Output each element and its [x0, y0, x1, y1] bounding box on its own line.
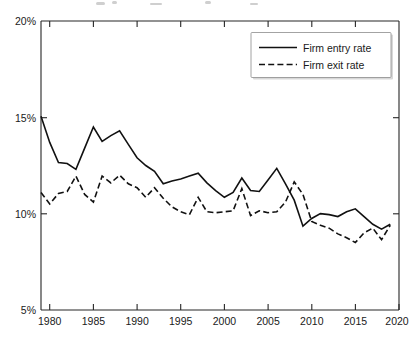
x-tick-label-2005: 2005 — [256, 315, 280, 327]
series-firm-entry-rate — [41, 116, 390, 229]
x-tick-label-2010: 2010 — [300, 315, 324, 327]
x-tick-label-2015: 2015 — [344, 315, 368, 327]
line-chart: 20% 15% 10% 5% 1980 1985 1990 1995 2000 … — [0, 0, 419, 342]
series-firm-exit-rate — [41, 175, 390, 242]
data-series-group — [41, 116, 390, 242]
chart-figure: 20% 15% 10% 5% 1980 1985 1990 1995 2000 … — [0, 0, 419, 342]
y-tick-label-10: 10% — [15, 208, 36, 220]
x-tick-label-2020: 2020 — [385, 315, 409, 327]
y-tick-marks — [41, 118, 399, 214]
legend: Firm entry rate Firm exit rate — [251, 33, 393, 80]
legend-label-exit: Firm exit rate — [303, 59, 364, 71]
scan-artifacts — [96, 1, 258, 5]
x-tick-label-2000: 2000 — [213, 315, 237, 327]
y-tick-label-20: 20% — [15, 15, 36, 27]
y-tick-label-15: 15% — [15, 112, 36, 124]
legend-label-entry: Firm entry rate — [303, 42, 371, 54]
x-tick-label-1980: 1980 — [38, 315, 62, 327]
x-tick-label-1985: 1985 — [82, 315, 106, 327]
y-tick-label-5: 5% — [21, 304, 36, 316]
x-tick-label-1995: 1995 — [169, 315, 193, 327]
x-tick-label-1990: 1990 — [125, 315, 149, 327]
